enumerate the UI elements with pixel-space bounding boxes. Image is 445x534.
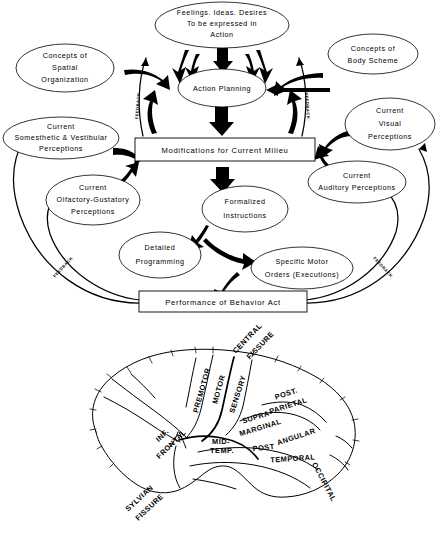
figure-canvas: FEEDBACK FEEDBACK FEEDBACK FEEDBACK — [0, 0, 445, 534]
node-feelings-line-1: Feelings. Ideas. Desires — [177, 8, 267, 17]
notch-14 — [107, 374, 112, 378]
node-modifications-for-current-milieu[interactable]: Modifications for Current Milieu — [135, 138, 315, 161]
arrow-modifications-to-planning-left — [143, 90, 158, 134]
node-motor-orders-line-2: Orders (Executions) — [265, 270, 339, 279]
node-spatial-line-1: Concepts of — [43, 51, 87, 60]
node-action-planning-label: Action Planning — [193, 84, 251, 93]
node-current-auditory-perceptions[interactable]: Current Auditory Perceptions — [308, 161, 406, 203]
brain-label-occipital: OCCIPITAL — [310, 461, 338, 504]
diagram-svg: FEEDBACK FEEDBACK FEEDBACK FEEDBACK — [0, 0, 445, 534]
node-motor-orders-line-1: Specific Motor — [275, 257, 328, 266]
node-olfactory-line-2: Olfactory-Gustatory — [57, 195, 130, 204]
node-auditory-line-1: Current — [343, 171, 371, 180]
brain-label-mid-temp-line-2: TEMP. — [210, 446, 234, 455]
node-spatial-line-2: Spatial — [52, 63, 78, 72]
node-feelings-line-3: Action — [210, 30, 233, 39]
node-specific-motor-orders[interactable]: Specific Motor Orders (Executions) — [251, 247, 353, 289]
node-feelings-line-2: To be expressed in — [187, 19, 257, 28]
node-formalized-outline — [202, 186, 288, 232]
arrow-body-right-into-planning — [266, 84, 330, 96]
arrow-spatial-to-planning — [124, 69, 170, 90]
notch-2 — [149, 357, 152, 363]
node-current-olfactory-gustatory-perceptions[interactable]: Current Olfactory-Gustatory Perceptions — [46, 175, 140, 225]
brain-diagram: PREMOTOR MOTOR SENSORY CENTRAL FISSURE P… — [90, 321, 359, 522]
node-body-line-1: Concepts of — [351, 44, 395, 53]
arrow-modifications-to-planning-right — [287, 90, 302, 134]
node-detailed-line-2: Programming — [135, 257, 184, 266]
frontal-sulcus-upper — [112, 379, 186, 437]
node-auditory-line-2: Auditory Perceptions — [318, 183, 395, 192]
node-olfactory-line-1: Current — [79, 183, 107, 192]
node-performance-label: Performance of Behavior Act — [165, 298, 281, 307]
node-formalized-instructions[interactable]: Formalized Instructions — [202, 186, 288, 232]
arrow-planning-to-modifications — [209, 104, 234, 136]
notch-16 — [90, 409, 96, 410]
node-somesthetic-line-2: Somesthetic & Vestibular — [14, 133, 107, 142]
node-formalized-line-2: Instructions — [223, 211, 266, 220]
node-motor-orders-outline — [251, 247, 353, 289]
notch-1 — [127, 367, 131, 373]
node-formalized-line-1: Formalized — [224, 197, 265, 206]
notch-10 — [340, 397, 345, 400]
frontal-sulcus-short — [131, 374, 155, 398]
node-somesthetic-line-1: Current — [47, 122, 75, 131]
node-detailed-programming[interactable]: Detailed Programming — [119, 232, 201, 278]
node-somesthetic-line-3: Perceptions — [39, 144, 83, 153]
node-visual-line-1: Current — [376, 106, 404, 115]
notch-12 — [353, 440, 359, 441]
brain-label-temporal: TEMPORAL — [270, 452, 316, 464]
arrow-detailed-to-motor — [203, 238, 256, 270]
notch-19 — [110, 463, 114, 467]
node-visual-line-2: Visual — [379, 119, 402, 128]
node-body-line-2: Body Scheme — [348, 56, 399, 65]
arrow-body-to-planning — [274, 73, 323, 96]
node-current-somesthetic-vestibular-perceptions[interactable]: Current Somesthetic & Vestibular Percept… — [3, 117, 119, 159]
node-feelings-ideas-desires[interactable]: Feelings. Ideas. Desires To be expressed… — [155, 2, 289, 48]
node-current-visual-perceptions[interactable]: Current Visual Perceptions — [345, 98, 435, 150]
node-concepts-of-body-scheme[interactable]: Concepts of Body Scheme — [328, 34, 418, 74]
brain-label-post: POST — [252, 442, 275, 454]
node-visual-line-3: Perceptions — [368, 132, 412, 141]
node-spatial-line-3: Organization — [41, 75, 88, 84]
inferior-temporal-sulcus — [193, 479, 236, 489]
node-modifications-label: Modifications for Current Milieu — [161, 146, 288, 155]
brain-label-angular: ANGULAR — [276, 426, 317, 447]
node-detailed-outline — [119, 232, 201, 278]
node-action-planning[interactable]: Action Planning — [178, 69, 266, 107]
notch-4 — [195, 347, 196, 353]
node-concepts-of-spatial-organization[interactable]: Concepts of Spatial Organization — [16, 44, 114, 92]
temporal-pole-line — [174, 446, 180, 488]
node-body-outline — [328, 34, 418, 74]
node-olfactory-line-3: Perceptions — [71, 207, 115, 216]
notch-18 — [97, 446, 102, 449]
middle-temporal-sulcus — [190, 462, 310, 488]
feedback-label-outer-right: FEEDBACK — [372, 255, 394, 278]
brain-label-mid-temp-line-1: MID- — [212, 437, 230, 446]
brain-label-sensory: SENSORY — [227, 374, 248, 414]
node-auditory-outline — [308, 161, 406, 203]
node-detailed-line-1: Detailed — [145, 243, 176, 252]
notch-3 — [171, 350, 173, 356]
node-performance-of-behavior-act[interactable]: Performance of Behavior Act — [139, 291, 307, 312]
notch-9 — [320, 378, 324, 383]
occipital-sulcus-2 — [336, 436, 352, 448]
